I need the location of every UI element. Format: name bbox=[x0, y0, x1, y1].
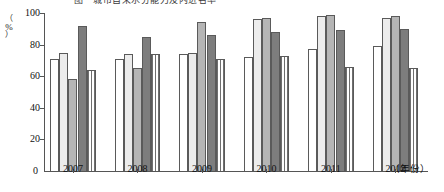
x-axis-unit-label: （年份） bbox=[390, 163, 430, 175]
bar bbox=[280, 56, 289, 171]
x-axis-tick-label: 2008 bbox=[117, 163, 157, 175]
x-axis-tick-label: 2007 bbox=[53, 163, 93, 175]
bar bbox=[68, 79, 77, 171]
y-axis-tick: 40 bbox=[44, 108, 45, 109]
bar bbox=[336, 30, 345, 171]
bar-group bbox=[373, 13, 421, 171]
y-axis-tick-mark bbox=[40, 139, 45, 140]
bar bbox=[188, 53, 197, 172]
bar bbox=[382, 18, 391, 171]
bar bbox=[207, 35, 216, 171]
bar bbox=[308, 49, 317, 171]
bar bbox=[197, 22, 206, 171]
y-axis-tick: 20 bbox=[44, 139, 45, 140]
y-axis-unit-label: （ % ） bbox=[2, 16, 16, 38]
y-axis-tick-mark bbox=[40, 45, 45, 46]
bar bbox=[124, 54, 133, 171]
bar bbox=[179, 54, 188, 171]
bar bbox=[87, 70, 96, 171]
bar-group bbox=[308, 13, 356, 171]
y-axis-tick: 80 bbox=[44, 45, 45, 46]
bar bbox=[271, 32, 280, 171]
bar bbox=[345, 67, 354, 171]
bar bbox=[151, 54, 160, 171]
bar bbox=[133, 68, 142, 171]
bar bbox=[142, 37, 151, 171]
bar bbox=[409, 68, 418, 171]
bar-group bbox=[50, 13, 98, 171]
x-axis-tick-label: 2009 bbox=[182, 163, 222, 175]
bar bbox=[216, 59, 225, 171]
y-axis-tick: 60 bbox=[44, 76, 45, 77]
y-axis-line bbox=[44, 13, 45, 172]
y-axis-tick-label: 40 bbox=[30, 102, 40, 113]
x-axis-line bbox=[44, 171, 428, 172]
bar bbox=[78, 26, 87, 171]
x-axis-tick-label: 2010 bbox=[246, 163, 286, 175]
bar bbox=[400, 29, 409, 171]
bar bbox=[59, 53, 68, 172]
y-axis-tick-label: 60 bbox=[30, 70, 40, 81]
bar bbox=[253, 19, 262, 171]
bar bbox=[391, 16, 400, 171]
bar-group bbox=[179, 13, 227, 171]
y-axis-tick-label: 20 bbox=[30, 133, 40, 144]
bar-chart: 图 城市自来水分能力及内进名率 （ % ） 10080604020 0 2007… bbox=[0, 0, 444, 192]
bar bbox=[244, 57, 253, 171]
bar bbox=[50, 59, 59, 171]
y-axis-tick-mark bbox=[40, 13, 45, 14]
bar-group bbox=[244, 13, 292, 171]
plot-area: 10080604020 0 bbox=[44, 13, 428, 172]
bar-group bbox=[115, 13, 163, 171]
y-unit-paren-close: ） bbox=[2, 32, 16, 38]
y-axis-tick-mark bbox=[40, 76, 45, 77]
y-axis-tick-mark bbox=[40, 108, 45, 109]
y-axis-tick: 100 bbox=[44, 13, 45, 14]
bar bbox=[115, 59, 124, 171]
y-axis-tick-label: 100 bbox=[25, 7, 40, 18]
x-axis-tick-label: 2011 bbox=[311, 163, 351, 175]
bar bbox=[262, 18, 271, 171]
bar bbox=[317, 16, 326, 171]
y-axis-zero-label: 0 bbox=[33, 165, 38, 176]
y-axis-tick-label: 80 bbox=[30, 39, 40, 50]
bar bbox=[373, 46, 382, 171]
chart-title: 图 城市自来水分能力及内进名率 bbox=[74, 0, 314, 4]
bar bbox=[326, 15, 335, 171]
